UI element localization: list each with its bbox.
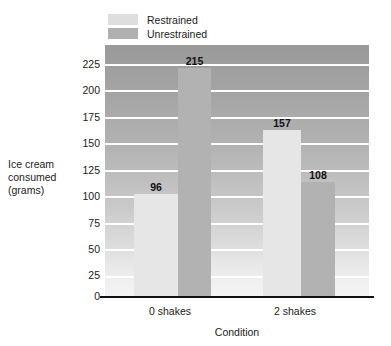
legend-label-unrestrained: Unrestrained — [147, 28, 207, 40]
value-label-unrestrained-0-shakes: 215 — [178, 55, 211, 67]
y-axis-tick-labels: 225 200 175 150 125 100 75 50 25 0 — [54, 0, 100, 346]
y-tick-175: 175 — [58, 112, 100, 123]
plot-area: 96 215 157 108 — [105, 45, 369, 296]
y-tick-75: 75 — [58, 218, 100, 229]
y-tick-0: 0 — [58, 291, 100, 302]
y-tick-125: 125 — [58, 165, 100, 176]
y-tick-150: 150 — [58, 138, 100, 149]
legend-item-unrestrained: Unrestrained — [108, 27, 308, 40]
legend-swatch-unrestrained — [108, 28, 138, 39]
legend-label-restrained: Restrained — [147, 14, 198, 26]
y-tick-100: 100 — [58, 191, 100, 202]
y-tick-50: 50 — [58, 244, 100, 255]
gridline-175 — [105, 117, 369, 119]
y-tick-225: 225 — [58, 59, 100, 70]
value-label-unrestrained-2-shakes: 108 — [301, 169, 335, 181]
y-tick-25: 25 — [58, 270, 100, 281]
legend-item-restrained: Restrained — [108, 13, 308, 26]
bar-unrestrained-0-shakes[interactable] — [178, 68, 211, 296]
value-label-restrained-0-shakes: 96 — [134, 181, 178, 193]
x-tick-label-0-shakes: 0 shakes — [120, 305, 220, 317]
y-tick-200: 200 — [58, 85, 100, 96]
chart-legend: Restrained Unrestrained — [108, 13, 308, 41]
x-axis-line — [100, 296, 374, 298]
gridline-225 — [105, 64, 369, 66]
bar-restrained-0-shakes[interactable] — [134, 194, 178, 296]
bar-restrained-2-shakes[interactable] — [263, 130, 301, 296]
x-tick-label-2-shakes: 2 shakes — [245, 305, 345, 317]
value-label-restrained-2-shakes: 157 — [263, 117, 301, 129]
bar-unrestrained-2-shakes[interactable] — [301, 182, 335, 296]
x-axis-title: Condition — [105, 326, 369, 338]
gridline-200 — [105, 90, 369, 92]
gridline-150 — [105, 143, 369, 145]
legend-swatch-restrained — [108, 14, 138, 25]
